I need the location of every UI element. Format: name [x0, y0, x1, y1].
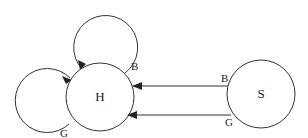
node-s: S: [227, 60, 295, 128]
loop-left-label: G: [60, 127, 68, 138]
node-h: H: [66, 63, 134, 131]
node-s-label: S: [257, 86, 264, 101]
state-diagram: H S B G B G: [0, 0, 308, 138]
edge-s-h-upper-label: B: [221, 72, 228, 84]
loop-left-path: [15, 69, 70, 133]
edge-s-h-lower-label: G: [225, 116, 233, 128]
self-loop-left: [15, 69, 72, 133]
loop-top-label: B: [131, 60, 138, 72]
node-h-label: H: [95, 89, 104, 104]
